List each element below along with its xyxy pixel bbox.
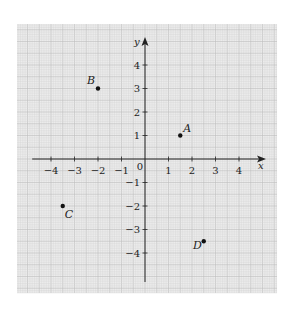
y-tick-label: 2 — [134, 107, 140, 118]
x-tick-label: −4 — [44, 165, 59, 176]
point-label: C — [65, 208, 74, 221]
y-axis-label: y — [133, 36, 140, 47]
origin-label: 0 — [137, 161, 143, 172]
x-tick-label: 4 — [236, 165, 242, 176]
y-tick-label: 3 — [134, 83, 140, 94]
x-tick-label: 1 — [165, 165, 171, 176]
y-tick-label: −3 — [125, 224, 140, 235]
x-tick-label: −3 — [67, 165, 82, 176]
x-axis-label: x — [258, 160, 264, 171]
x-tick-label: 3 — [212, 165, 218, 176]
point-label: D — [192, 239, 202, 252]
x-tick-label: 2 — [189, 165, 195, 176]
y-tick-label: −2 — [125, 201, 140, 212]
coordinate-plane: xy −4−3−2−11234−4−3−2−112340 ABCD — [0, 0, 292, 314]
y-tick-label: −1 — [125, 177, 140, 188]
point-dot — [178, 133, 182, 137]
point-dot — [202, 239, 206, 243]
y-tick-label: −4 — [125, 248, 140, 259]
point-dot — [96, 86, 100, 90]
y-tick-label: 4 — [134, 60, 140, 71]
y-tick-label: 1 — [134, 130, 140, 141]
point-label: B — [86, 74, 95, 87]
x-tick-label: −1 — [114, 165, 129, 176]
point-label: A — [182, 122, 191, 135]
x-tick-label: −2 — [91, 165, 106, 176]
